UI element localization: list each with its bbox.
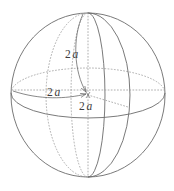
dimension-label-depth: 2a: [47, 87, 61, 99]
dimension-symbol-depth: a: [53, 86, 61, 98]
horizontal-diameter-arrow: [88, 95, 128, 107]
dimension-symbol-horizontal: a: [85, 100, 93, 112]
meridian-narrow-front-solid: [88, 13, 105, 177]
sphere-figure: 2a 2a 2a: [0, 0, 174, 191]
dimension-label-vertical: 2a: [65, 49, 79, 61]
sphere-drawing: [0, 0, 174, 191]
meridian-narrow-back-dotted: [71, 13, 88, 177]
dimension-symbol-vertical: a: [71, 48, 79, 60]
dimension-label-horizontal: 2a: [79, 101, 93, 113]
meridian-wide-front-solid: [88, 13, 130, 177]
